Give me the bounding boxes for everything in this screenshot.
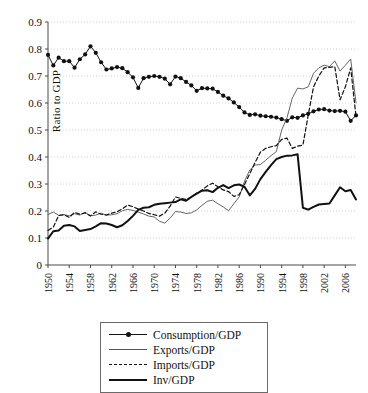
data-point-marker xyxy=(147,75,151,79)
data-point-marker xyxy=(205,86,209,90)
data-point-marker xyxy=(62,59,66,63)
data-point-marker xyxy=(195,89,199,93)
data-point-marker xyxy=(189,83,193,87)
data-point-marker xyxy=(311,109,315,113)
svg-text:0.3: 0.3 xyxy=(28,178,42,190)
data-point-marker xyxy=(290,115,294,119)
data-point-marker xyxy=(237,105,241,109)
data-point-marker xyxy=(99,60,103,64)
svg-text:1974: 1974 xyxy=(170,273,181,293)
data-point-marker xyxy=(322,107,326,111)
svg-text:1962: 1962 xyxy=(107,273,118,293)
series-line-inv-gdp xyxy=(48,154,356,238)
svg-text:1982: 1982 xyxy=(213,273,224,293)
legend-item-inv: Inv/GDP xyxy=(107,372,261,387)
data-point-marker xyxy=(136,86,140,90)
svg-text:0.1: 0.1 xyxy=(28,232,42,244)
svg-text:0.5: 0.5 xyxy=(28,124,42,136)
data-point-marker xyxy=(110,66,114,70)
y-axis-label: Ratio to GDP xyxy=(50,41,62,161)
data-point-marker xyxy=(221,94,225,98)
x-axis-ticks: 1950195419581962196619701974197819821986… xyxy=(43,265,351,293)
data-point-marker xyxy=(264,114,268,118)
legend-item-exports: Exports/GDP xyxy=(107,342,261,357)
data-point-marker xyxy=(226,96,230,100)
data-point-marker xyxy=(67,59,71,63)
data-point-marker xyxy=(216,90,220,94)
svg-text:0: 0 xyxy=(37,259,43,271)
data-point-marker xyxy=(131,75,135,79)
data-point-marker xyxy=(295,116,299,120)
data-point-marker xyxy=(104,67,108,71)
data-point-marker xyxy=(232,100,236,104)
data-point-marker xyxy=(115,65,119,69)
data-point-marker xyxy=(200,86,204,90)
data-point-marker xyxy=(141,76,145,80)
data-point-marker xyxy=(274,115,278,119)
data-point-marker xyxy=(88,44,92,48)
data-point-marker xyxy=(83,52,87,56)
data-point-marker xyxy=(78,57,82,61)
data-point-marker xyxy=(157,75,161,79)
data-point-marker xyxy=(72,66,76,70)
svg-text:1986: 1986 xyxy=(234,273,245,293)
data-point-marker xyxy=(253,112,257,116)
svg-text:1970: 1970 xyxy=(149,273,160,293)
data-point-marker xyxy=(179,76,183,80)
data-point-marker xyxy=(349,119,353,123)
data-point-marker xyxy=(327,108,331,112)
svg-text:1998: 1998 xyxy=(298,273,309,293)
svg-text:0.8: 0.8 xyxy=(28,43,42,55)
legend-key-exports xyxy=(107,344,149,356)
svg-text:1978: 1978 xyxy=(192,273,203,293)
data-point-marker xyxy=(168,82,172,86)
legend-label-inv: Inv/GDP xyxy=(149,374,195,386)
data-point-marker xyxy=(317,107,321,111)
series-line-exports-gdp xyxy=(48,59,356,223)
svg-text:2006: 2006 xyxy=(340,273,351,293)
legend-label-exports: Exports/GDP xyxy=(149,344,215,356)
data-point-marker xyxy=(338,109,342,113)
legend-item-consumption: Consumption/GDP xyxy=(107,327,261,342)
data-point-marker xyxy=(94,51,98,55)
data-point-marker xyxy=(258,114,262,118)
svg-text:1990: 1990 xyxy=(255,273,266,293)
data-point-marker xyxy=(211,87,215,91)
svg-text:1950: 1950 xyxy=(43,273,54,293)
svg-text:1966: 1966 xyxy=(128,273,139,293)
data-point-marker xyxy=(301,113,305,117)
data-point-marker xyxy=(242,110,246,114)
legend-label-consumption: Consumption/GDP xyxy=(149,329,241,341)
svg-text:0.4: 0.4 xyxy=(28,151,42,163)
legend-item-imports: Imports/GDP xyxy=(107,357,261,372)
data-point-marker xyxy=(152,74,156,78)
axis-lines xyxy=(48,22,356,265)
data-point-marker xyxy=(173,74,177,78)
legend-label-imports: Imports/GDP xyxy=(149,359,215,371)
data-point-marker xyxy=(333,109,337,113)
legend-key-consumption xyxy=(107,329,149,341)
data-point-marker xyxy=(120,66,124,70)
data-series-group xyxy=(46,44,358,238)
chart-legend: Consumption/GDP Exports/GDP Imports/GDP … xyxy=(100,322,268,393)
svg-text:0.2: 0.2 xyxy=(28,205,42,217)
data-point-marker xyxy=(280,117,284,121)
svg-text:1994: 1994 xyxy=(277,273,288,293)
svg-text:1954: 1954 xyxy=(64,273,75,293)
y-axis-ticks: 00.10.20.30.40.50.60.70.80.9 xyxy=(28,16,48,271)
legend-key-imports xyxy=(107,359,149,371)
legend-key-inv xyxy=(107,374,149,386)
svg-text:0.7: 0.7 xyxy=(28,70,42,82)
svg-text:2002: 2002 xyxy=(319,273,330,293)
data-point-marker xyxy=(269,115,273,119)
data-point-marker xyxy=(126,70,130,74)
plot-area: Ratio to GDP 00.10.20.30.40.50.60.70.80.… xyxy=(0,0,368,300)
data-point-marker xyxy=(163,77,167,81)
svg-text:0.6: 0.6 xyxy=(28,97,42,109)
data-point-marker xyxy=(248,113,252,117)
data-point-marker xyxy=(184,80,188,84)
svg-text:0.9: 0.9 xyxy=(28,16,42,28)
data-point-marker xyxy=(343,110,347,114)
svg-text:1958: 1958 xyxy=(85,273,96,293)
